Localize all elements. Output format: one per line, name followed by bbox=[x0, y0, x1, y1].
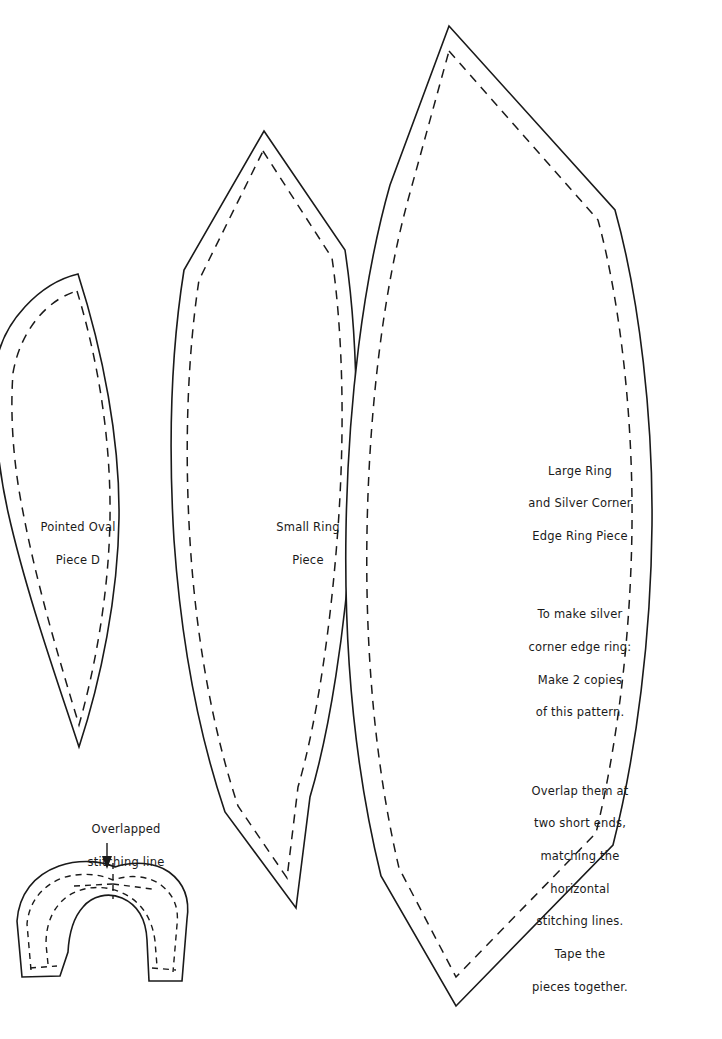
small-ring-label-line-2: Piece bbox=[243, 552, 373, 568]
large-ring-line-2-4: of this pattern. bbox=[515, 704, 645, 720]
pointed-oval-label: Pointed Oval Piece D bbox=[8, 503, 148, 585]
small-ring-label: Small Ring Piece bbox=[243, 503, 373, 585]
large-ring-instructions-paragraph-3: Overlap them at two short ends, matching… bbox=[515, 766, 645, 1011]
large-ring-line-3-6: Tape the bbox=[515, 946, 645, 962]
pointed-oval-label-line-1: Pointed Oval bbox=[8, 519, 148, 535]
large-ring-line-2-3: Make 2 copies bbox=[515, 672, 645, 688]
large-ring-line-3-7: pieces together. bbox=[515, 979, 645, 995]
large-ring-line-3-1: Overlap them at bbox=[515, 783, 645, 799]
large-ring-line-3-2: two short ends, bbox=[515, 815, 645, 831]
pointed-oval-label-line-2: Piece D bbox=[8, 552, 148, 568]
large-ring-instructions-paragraph-1: Large Ring and Silver Corner Edge Ring P… bbox=[515, 446, 645, 560]
large-ring-line-3-5: stitching lines. bbox=[515, 913, 645, 929]
large-ring-instructions-paragraph-2: To make silver corner edge ring: Make 2 … bbox=[515, 590, 645, 737]
pattern-sheet: Pointed Oval Piece D Small Ring Piece La… bbox=[0, 0, 722, 1039]
small-ring-label-line-1: Small Ring bbox=[243, 519, 373, 535]
overlapped-label-line-2: stitching line bbox=[60, 854, 192, 870]
large-ring-line-1-1: Large Ring bbox=[515, 463, 645, 479]
overlapped-stitching-line-label: Overlapped stitching line bbox=[60, 805, 192, 887]
large-ring-line-2-2: corner edge ring: bbox=[515, 639, 645, 655]
large-ring-line-1-2: and Silver Corner bbox=[515, 495, 645, 511]
large-ring-line-2-1: To make silver bbox=[515, 606, 645, 622]
large-ring-line-3-3: matching the bbox=[515, 848, 645, 864]
overlapped-label-line-1: Overlapped bbox=[60, 821, 192, 837]
large-ring-line-3-4: horizontal bbox=[515, 881, 645, 897]
large-ring-instructions: Large Ring and Silver Corner Edge Ring P… bbox=[515, 430, 645, 1027]
large-ring-line-1-3: Edge Ring Piece bbox=[515, 528, 645, 544]
